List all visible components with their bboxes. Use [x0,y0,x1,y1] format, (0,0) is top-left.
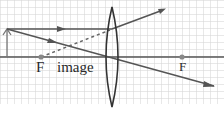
focal-label-left: F [36,60,44,75]
grid-background [0,0,224,104]
focal-label-right: F [179,60,186,73]
ray-diagram: F image F [0,0,224,116]
image-label: image [57,60,94,75]
diagram-canvas [0,0,224,116]
